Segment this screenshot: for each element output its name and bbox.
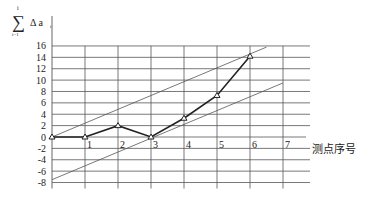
y-tick-label: 16 bbox=[36, 40, 46, 51]
y-tick-label: 0 bbox=[41, 132, 46, 143]
triangle-marker bbox=[115, 123, 121, 128]
y-tick-label: -4 bbox=[38, 154, 46, 165]
y-tick-label: 14 bbox=[36, 52, 46, 63]
y-axis-ticks: 1614121086420-2-4-6-8 bbox=[36, 40, 46, 188]
x-tick-label: 7 bbox=[285, 139, 290, 150]
y-tick-label: 6 bbox=[41, 97, 46, 108]
y-tick-label: 10 bbox=[36, 75, 46, 86]
sum-lower-limit: i=1 bbox=[12, 32, 19, 37]
y-tick-label: -6 bbox=[38, 166, 46, 177]
sum-symbol: ∑ bbox=[12, 12, 25, 32]
x-tick-label: 4 bbox=[186, 139, 191, 150]
x-tick-label: 2 bbox=[120, 139, 125, 150]
y-tick-label: 4 bbox=[41, 109, 46, 120]
delta-a-symbol: Δ a bbox=[30, 17, 43, 28]
y-tick-label: 12 bbox=[36, 63, 46, 74]
x-axis-label: 测点序号 bbox=[312, 142, 356, 155]
y-tick-label: 2 bbox=[41, 120, 46, 131]
upper-envelope bbox=[52, 47, 267, 137]
chart-svg: 1614121086420-2-4-6-8 1234567 i ∑ i=1 Δ … bbox=[0, 0, 368, 200]
x-tick-label: 6 bbox=[252, 139, 257, 150]
x-tick-label: 1 bbox=[87, 139, 92, 150]
x-tick-label: 5 bbox=[219, 139, 224, 150]
grid-lines bbox=[52, 16, 310, 189]
y-tick-label: -2 bbox=[38, 143, 46, 154]
x-tick-label: 3 bbox=[153, 139, 158, 150]
y-tick-label: -8 bbox=[38, 177, 46, 188]
lower-envelope bbox=[52, 83, 283, 180]
y-tick-label: 8 bbox=[41, 86, 46, 97]
deviation-chart: 1614121086420-2-4-6-8 1234567 i ∑ i=1 Δ … bbox=[0, 0, 368, 200]
triangle-marker bbox=[247, 53, 253, 58]
sum-upper-limit: i bbox=[17, 5, 19, 11]
y-axis-label: i ∑ i=1 Δ a i bbox=[12, 5, 52, 37]
